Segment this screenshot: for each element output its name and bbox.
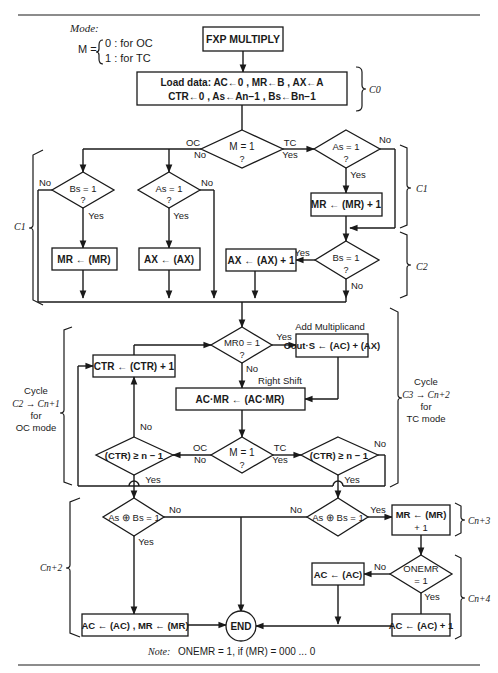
decision-xor-tc: As ⊕ Bs = 1 <box>307 498 368 536</box>
svg-text:1 : for TC: 1 : for TC <box>105 52 151 64</box>
svg-text:Load data: AC←0 , MR←B , AX←A: Load data: AC←0 , MR←B , AX←A <box>160 77 323 88</box>
svg-text:As = 1: As = 1 <box>155 183 182 194</box>
svg-text:AX ← (AX): AX ← (AX) <box>144 254 194 265</box>
svg-text:No: No <box>290 504 302 515</box>
decision-as-oc: As = 1 ? <box>138 172 200 208</box>
svg-text:0 : for OC: 0 : for OC <box>105 37 153 49</box>
svg-text:for: for <box>30 410 41 421</box>
svg-text:FXP MULTIPLY: FXP MULTIPLY <box>206 33 280 45</box>
svg-text:AX ← (AX) + 1: AX ← (AX) + 1 <box>228 255 295 266</box>
svg-text:MR ← (MR) + 1: MR ← (MR) + 1 <box>311 199 382 210</box>
svg-text:TC mode: TC mode <box>406 413 445 424</box>
load-data-box: Load data: AC←0 , MR←B , AX←A CTR←0 , As… <box>137 72 347 105</box>
decision-mode-bottom: M = 1 ? <box>211 437 273 473</box>
svg-text:Cn+4: Cn+4 <box>468 594 490 604</box>
process-ctr-inc: CTR ← (CTR) + 1 <box>93 355 175 377</box>
svg-text:Yes: Yes <box>350 169 366 180</box>
svg-text:AC·MR ← (AC·MR): AC·MR ← (AC·MR) <box>196 394 285 405</box>
svg-text:?: ? <box>343 265 348 275</box>
svg-text:No: No <box>374 438 386 449</box>
svg-text:Cycle: Cycle <box>414 376 438 387</box>
svg-text:?: ? <box>239 154 244 164</box>
decision-xor-oc: As ⊕ Bs = 1 <box>103 498 164 536</box>
svg-text:As ⊕ Bs = 1: As ⊕ Bs = 1 <box>108 512 160 523</box>
svg-text:No: No <box>246 363 258 374</box>
svg-text:M = 1: M = 1 <box>229 141 255 152</box>
svg-text:C0: C0 <box>369 84 381 95</box>
svg-text:ONEMR = 1, if (MR) = 000 ... 0: ONEMR = 1, if (MR) = 000 ... 0 <box>178 646 316 657</box>
svg-text:Mode:: Mode: <box>69 22 99 34</box>
svg-text:Cn+2: Cn+2 <box>40 563 62 573</box>
svg-text:Yes: Yes <box>424 591 440 602</box>
svg-text:No: No <box>379 134 391 145</box>
start-box: FXP MULTIPLY <box>203 27 283 51</box>
svg-text:OC: OC <box>193 442 207 453</box>
svg-text:for: for <box>420 401 431 412</box>
svg-text:No: No <box>351 280 363 291</box>
svg-text:?: ? <box>166 195 171 205</box>
svg-text:C2: C2 <box>416 261 428 272</box>
svg-text:ONEMR: ONEMR <box>403 563 439 574</box>
process-ac-complement-inc: AC ← (AC) + 1 <box>389 614 454 636</box>
svg-text:M =: M = <box>78 43 97 55</box>
svg-text:Cycle: Cycle <box>24 385 48 396</box>
process-ax-complement: AX ← (AX) <box>139 248 200 270</box>
svg-text:No: No <box>169 504 181 515</box>
svg-text:C1: C1 <box>416 183 428 194</box>
svg-text:MR ← (MR): MR ← (MR) <box>57 254 110 265</box>
decision-bs-tc: Bs = 1 ? <box>315 241 379 279</box>
svg-text:(CTR) ≥ n − 1: (CTR) ≥ n − 1 <box>310 450 369 461</box>
svg-text:?: ? <box>343 154 348 164</box>
svg-text:Yes: Yes <box>173 210 189 221</box>
svg-text:?: ? <box>239 350 244 360</box>
decision-bs-oc: Bs = 1 ? <box>52 172 114 208</box>
svg-text:MR ← (MR): MR ← (MR) <box>396 509 447 520</box>
process-right-shift: AC·MR ← (AC·MR) <box>176 388 305 410</box>
svg-text:= 1: = 1 <box>414 575 427 586</box>
process-mr-final: MR ← (MR) + 1 <box>392 505 450 535</box>
decision-ctr-oc: (CTR) ≥ n − 1 <box>96 437 173 475</box>
svg-text:No: No <box>39 177 51 188</box>
process-mr-complement: MR ← (MR) <box>52 248 117 270</box>
svg-text:Note:: Note: <box>147 646 170 657</box>
decision-as-tc: As = 1 ? <box>314 130 380 168</box>
svg-text:OC mode: OC mode <box>16 422 57 433</box>
svg-text:Yes: Yes <box>138 536 154 547</box>
svg-text:(CTR) ≥ n − 1: (CTR) ≥ n − 1 <box>105 450 164 461</box>
svg-text:Yes: Yes <box>344 474 360 485</box>
svg-text:+ 1: + 1 <box>414 522 427 533</box>
decision-mr0: MR0 = 1 ? <box>211 327 272 363</box>
process-oc-final: AC ← (AC) , MR ← (MR) <box>81 614 188 636</box>
cycle-tc-label: Cycle C3 → Cn+2 for TC mode <box>402 376 450 424</box>
svg-text:As ⊕ Bs = 1: As ⊕ Bs = 1 <box>312 512 364 523</box>
svg-text:Bs = 1: Bs = 1 <box>332 252 359 263</box>
svg-text:M = 1: M = 1 <box>229 447 255 458</box>
decision-ctr-tc: (CTR) ≥ n − 1 <box>301 437 378 475</box>
svg-text:C2 → Cn+1: C2 → Cn+1 <box>12 399 60 409</box>
footnote: Note: ONEMR = 1, if (MR) = 000 ... 0 <box>147 646 316 657</box>
svg-text:No: No <box>201 177 213 188</box>
process-add-multiplicand: Cout·S ← (AC) + (AX) <box>284 334 380 357</box>
svg-text:Right Shift: Right Shift <box>258 375 302 386</box>
fxp-multiply-flowchart: Mode: M = 0 : for OC 1 : for TC FXP MULT… <box>0 0 498 673</box>
svg-text:No: No <box>140 421 152 432</box>
svg-text:AC ← (AC) , MR ← (MR): AC ← (AC) , MR ← (MR) <box>81 620 188 631</box>
svg-text:AC ← (AC): AC ← (AC) <box>314 569 363 580</box>
svg-text:As = 1: As = 1 <box>332 141 359 152</box>
svg-text:Yes: Yes <box>88 210 104 221</box>
svg-text:TC: TC <box>284 137 297 148</box>
svg-text:Yes: Yes <box>370 504 386 515</box>
decision-onemr: ONEMR = 1 <box>390 555 452 593</box>
svg-text:No: No <box>194 149 206 160</box>
svg-text:CTR←0 , As←An−1 , Bs←Bn−1: CTR←0 , As←An−1 , Bs←Bn−1 <box>168 91 316 102</box>
svg-text:OC: OC <box>186 137 200 148</box>
process-mr-complement-inc: MR ← (MR) + 1 <box>311 193 382 216</box>
svg-text:?: ? <box>239 460 244 470</box>
svg-text:Cn+3: Cn+3 <box>468 516 490 526</box>
svg-text:END: END <box>230 621 251 632</box>
svg-text:Yes: Yes <box>145 474 161 485</box>
svg-text:Cout·S ← (AC) + (AX): Cout·S ← (AC) + (AX) <box>284 340 380 351</box>
svg-text:C1: C1 <box>14 221 26 232</box>
svg-text:Add Multiplicand: Add Multiplicand <box>295 321 365 332</box>
mode-legend: Mode: M = 0 : for OC 1 : for TC <box>69 22 153 64</box>
